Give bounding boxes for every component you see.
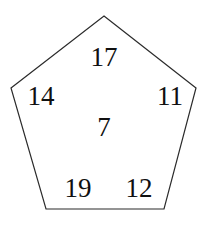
number-label-left: 14 bbox=[28, 83, 55, 110]
number-label-bottom-right: 12 bbox=[126, 175, 153, 202]
number-label-top: 17 bbox=[91, 44, 118, 71]
number-label-bottom-left: 19 bbox=[65, 175, 92, 202]
number-label-right: 11 bbox=[157, 83, 183, 110]
pentagon-number-diagram: 17 14 11 7 19 12 bbox=[0, 0, 212, 235]
number-label-center: 7 bbox=[97, 114, 111, 141]
